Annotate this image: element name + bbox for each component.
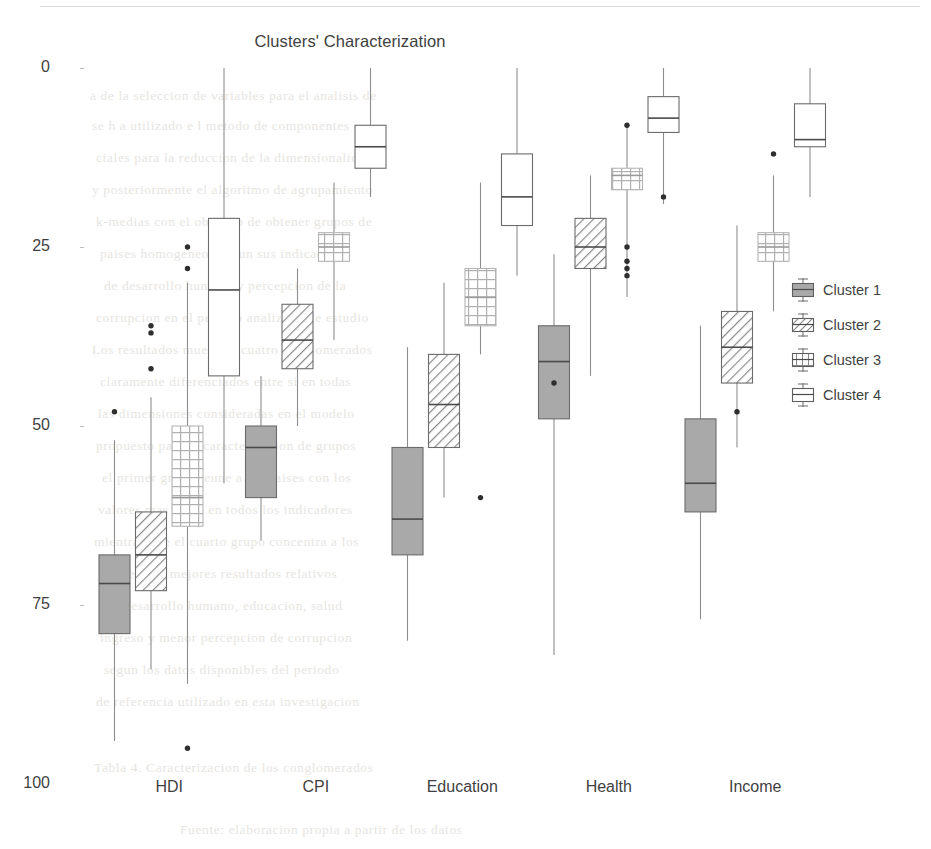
y-tick-mark (80, 247, 84, 248)
x-tick-label-income: Income (685, 778, 825, 796)
box-cluster-2-income (722, 226, 753, 448)
x-tick-label-health: Health (539, 778, 679, 796)
box-cluster-3-income (758, 151, 789, 311)
chart-legend: Cluster 1Cluster 2Cluster 3Cluster 4 (790, 272, 922, 412)
box-cluster-4-cpi (355, 68, 386, 197)
legend-key-icon (790, 382, 816, 408)
box-cluster-2-health (575, 175, 606, 375)
legend-item-cluster-4[interactable]: Cluster 4 (790, 377, 922, 412)
box-cluster-3-cpi (319, 183, 350, 341)
legend-item-cluster-3[interactable]: Cluster 3 (790, 342, 922, 377)
box-cluster-1-income (685, 326, 716, 620)
y-tick-label: 50 (0, 416, 50, 434)
y-tick-label: 75 (0, 595, 50, 613)
legend-key-icon (790, 312, 816, 338)
box-cluster-4-health (648, 68, 679, 204)
legend-item-label: Cluster 4 (823, 387, 881, 403)
box-cluster-1-health (539, 254, 570, 655)
y-tick-mark (80, 426, 84, 427)
box-cluster-2-hdi (136, 323, 167, 669)
box-cluster-4-hdi (209, 68, 240, 483)
box-cluster-2-cpi (282, 268, 313, 426)
legend-item-label: Cluster 3 (823, 352, 881, 368)
box-cluster-3-hdi (172, 244, 203, 751)
legend-item-label: Cluster 2 (823, 317, 881, 333)
box-cluster-2-education (429, 283, 460, 498)
box-cluster-4-income (795, 68, 826, 197)
box-cluster-4-education (502, 68, 533, 276)
chart-plot-area (0, 0, 931, 849)
y-tick-label: 0 (0, 58, 50, 76)
box-cluster-1-hdi (99, 409, 130, 741)
y-tick-mark (80, 68, 84, 69)
legend-item-cluster-1[interactable]: Cluster 1 (790, 272, 922, 307)
x-tick-label-education: Education (392, 778, 532, 796)
y-tick-label: 100 (0, 774, 50, 792)
box-cluster-1-cpi (246, 376, 277, 541)
y-tick-label: 25 (0, 237, 50, 255)
boxplot-chart: a de la seleccion de variables para el a… (0, 0, 931, 849)
box-cluster-1-education (392, 347, 423, 641)
legend-key-icon (790, 347, 816, 373)
x-tick-label-cpi: CPI (246, 778, 386, 796)
box-cluster-3-education (465, 183, 496, 501)
legend-key-icon (790, 277, 816, 303)
legend-item-cluster-2[interactable]: Cluster 2 (790, 307, 922, 342)
legend-item-label: Cluster 1 (823, 282, 881, 298)
box-cluster-3-health (612, 123, 643, 298)
x-tick-label-hdi: HDI (99, 778, 239, 796)
y-tick-mark (80, 605, 84, 606)
